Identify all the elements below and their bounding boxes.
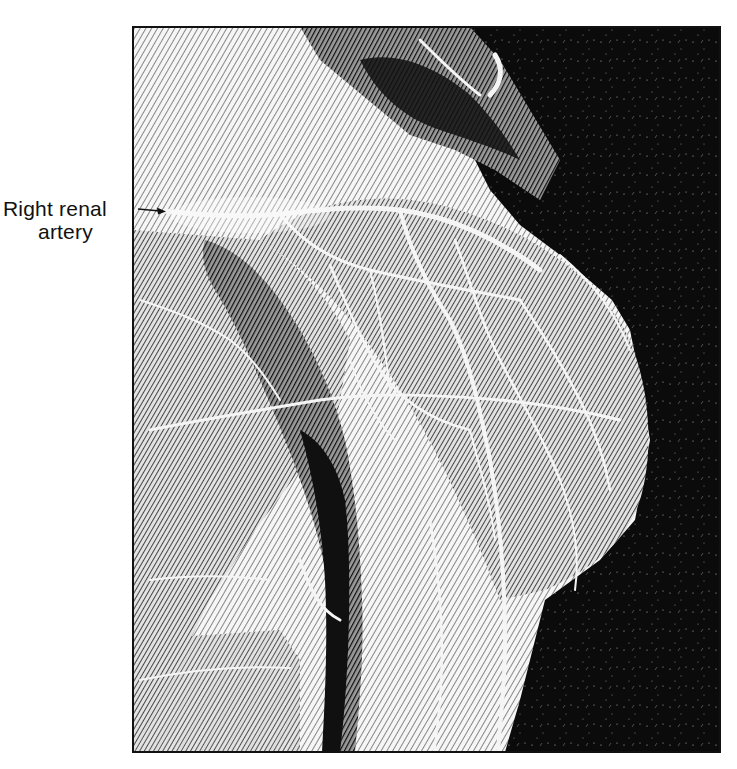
- right-renal-artery-label: Right renal artery: [2, 197, 154, 243]
- renal-angiogram-figure: [0, 0, 737, 769]
- illustration-body: [133, 27, 720, 752]
- illustration-canvas: [0, 0, 737, 769]
- label-line-2: artery: [2, 220, 154, 243]
- label-line-1: Right renal: [2, 197, 154, 220]
